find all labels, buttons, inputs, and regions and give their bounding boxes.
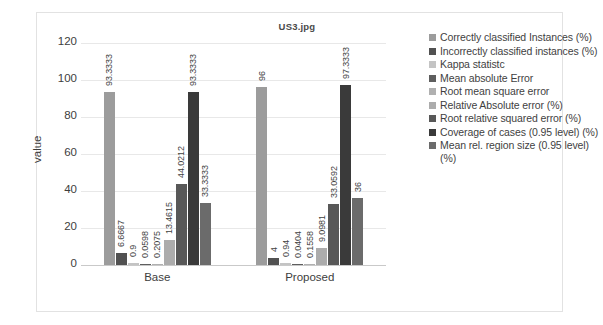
bar-slot: 4	[268, 43, 279, 265]
legend-item[interactable]: Coverage of cases (0.95 level) (%)	[429, 126, 603, 139]
legend-swatch-icon	[429, 88, 436, 95]
bar-group-bars: 9640.940.04040.15589.098133.059297.33333…	[234, 43, 387, 265]
legend-item-label: Mean rel. region size (0.95 level) (%)	[440, 139, 603, 164]
legend-item[interactable]: Mean absolute Error	[429, 72, 603, 85]
plot-area: 93.33336.66670.90.05980.207513.461544.02…	[81, 43, 386, 265]
bar-slot: 0.9	[128, 43, 139, 265]
y-axis-tick-label: 80	[37, 109, 77, 121]
legend-item[interactable]: Kappa statistc	[429, 58, 603, 71]
bar[interactable]	[268, 258, 279, 265]
bar-value-label: 0.2075	[152, 231, 162, 258]
bar[interactable]	[340, 85, 351, 265]
bar-slot: 13.4615	[164, 43, 175, 265]
bar-value-label: 93.3333	[188, 55, 198, 87]
bar-groups: 93.33336.66670.90.05980.207513.461544.02…	[81, 43, 386, 265]
bar-value-label: 0.94	[280, 240, 290, 257]
bar[interactable]	[116, 253, 127, 265]
bar-value-label: 33.0592	[328, 166, 338, 198]
bar-value-label: 4	[268, 247, 278, 252]
y-axis-tick-label: 20	[37, 220, 77, 232]
bar-value-label: 0.0598	[140, 231, 150, 258]
chart-legend: Correctly classified Instances (%)Incorr…	[429, 31, 603, 165]
bar-value-label: 6.6667	[116, 220, 126, 247]
legend-item-label: Root mean square error	[440, 85, 549, 98]
chart-title: US3.jpg	[232, 21, 362, 32]
legend-swatch-icon	[429, 75, 436, 82]
legend-item-label: Coverage of cases (0.95 level) (%)	[440, 126, 598, 139]
legend-swatch-icon	[429, 142, 436, 149]
legend-item[interactable]: Relative Absolute error (%)	[429, 99, 603, 112]
legend-item-label: Root relative squared error (%)	[440, 112, 581, 125]
y-axis-tick-label: 120	[37, 35, 77, 47]
bar-slot: 0.1558	[304, 43, 315, 265]
legend-item-label: Kappa statistc	[440, 58, 505, 71]
chart-container: US3.jpg value 120100806040200 93.33336.6…	[36, 12, 563, 312]
legend-swatch-icon	[429, 129, 436, 136]
legend-swatch-icon	[429, 34, 436, 41]
y-axis-tick-label: 0	[37, 257, 77, 269]
bar[interactable]	[188, 92, 199, 265]
bar-slot: 96	[256, 43, 267, 265]
bar-slot: 0.0404	[292, 43, 303, 265]
bar-value-label: 0.0404	[292, 231, 302, 258]
bar[interactable]	[104, 92, 115, 265]
bar-slot: 0.0598	[140, 43, 151, 265]
y-axis-tick-label: 60	[37, 146, 77, 158]
bar-slot: 6.6667	[116, 43, 127, 265]
bar-slot: 93.3333	[104, 43, 115, 265]
y-axis-tick-label: 40	[37, 183, 77, 195]
bar-slot: 0.94	[280, 43, 291, 265]
bar-group: 9640.940.04040.15589.098133.059297.33333…	[234, 43, 387, 265]
legend-item-label: Mean absolute Error	[440, 72, 533, 85]
bar-slot: 0.2075	[152, 43, 163, 265]
bar[interactable]	[256, 87, 267, 265]
x-axis-category-label: Proposed	[234, 271, 387, 283]
bar-slot: 9.0981	[316, 43, 327, 265]
bar-value-label: 97.3333	[340, 47, 350, 79]
legend-item-label: Incorrectly classified instances (%)	[440, 45, 597, 58]
bar-value-label: 93.3333	[104, 55, 114, 87]
bar-slot: 36	[352, 43, 363, 265]
bar-group: 93.33336.66670.90.05980.207513.461544.02…	[81, 43, 234, 265]
bar-value-label: 36	[352, 183, 362, 193]
legend-item-label: Relative Absolute error (%)	[440, 99, 563, 112]
legend-item[interactable]: Root relative squared error (%)	[429, 112, 603, 125]
bar-value-label: 0.9	[128, 245, 138, 257]
legend-swatch-icon	[429, 115, 436, 122]
legend-item[interactable]: Mean rel. region size (0.95 level) (%)	[429, 139, 603, 164]
legend-swatch-icon	[429, 61, 436, 68]
legend-item[interactable]: Correctly classified Instances (%)	[429, 31, 603, 44]
bar-value-label: 9.0981	[316, 215, 326, 242]
bar[interactable]	[164, 240, 175, 265]
bar-slot: 93.3333	[188, 43, 199, 265]
legend-item[interactable]: Incorrectly classified instances (%)	[429, 45, 603, 58]
bar-value-label: 13.4615	[164, 202, 174, 234]
bar[interactable]	[316, 248, 327, 265]
bar-value-label: 96	[256, 72, 266, 82]
y-axis-tick-label: 100	[37, 72, 77, 84]
legend-item-label: Correctly classified Instances (%)	[440, 31, 592, 44]
bar-value-label: 44.0212	[176, 146, 186, 178]
legend-swatch-icon	[429, 48, 436, 55]
bar-value-label: 33.3333	[200, 166, 210, 198]
legend-swatch-icon	[429, 102, 436, 109]
bar-slot: 33.0592	[328, 43, 339, 265]
bar[interactable]	[200, 203, 211, 265]
bar-group-bars: 93.33336.66670.90.05980.207513.461544.02…	[81, 43, 234, 265]
bar[interactable]	[328, 204, 339, 265]
x-axis-line	[81, 265, 386, 266]
bar-slot: 97.3333	[340, 43, 351, 265]
x-axis-category-label: Base	[81, 271, 234, 283]
bar[interactable]	[352, 198, 363, 265]
legend-item[interactable]: Root mean square error	[429, 85, 603, 98]
bar[interactable]	[176, 184, 187, 265]
bar-slot: 33.3333	[200, 43, 211, 265]
bar-value-label: 0.1558	[304, 231, 314, 258]
bar-slot: 44.0212	[176, 43, 187, 265]
